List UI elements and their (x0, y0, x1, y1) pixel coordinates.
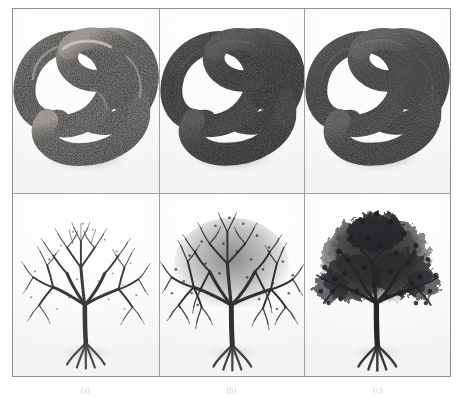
knot-stage-b (160, 9, 305, 193)
knot-render-matte (160, 9, 305, 193)
caption-b: (b) (158, 386, 304, 398)
figure-root: (a) (b) (c) (0, 0, 462, 399)
panel-tree-b (159, 193, 305, 377)
panel-knot-a (13, 9, 159, 193)
knot-stage-c (305, 9, 450, 193)
caption-c: (c) (305, 386, 451, 398)
tree-stage-b (160, 194, 305, 377)
knot-render-matte-rim (305, 9, 450, 193)
caption-a: (a) (12, 386, 158, 398)
tree-render-medium (160, 194, 305, 377)
panel-tree-c (304, 193, 450, 377)
tree-render-sparse (13, 194, 159, 377)
knot-render-glossy (13, 9, 159, 193)
panel-tree-a (13, 193, 159, 377)
tree-stage-c (305, 194, 450, 377)
caption-row: (a) (b) (c) (12, 386, 451, 399)
figure-grid (12, 8, 451, 377)
tree-stage-a (13, 194, 159, 377)
tree-render-dense (305, 194, 450, 377)
knot-stage-a (13, 9, 159, 193)
panel-knot-c (304, 9, 450, 193)
panel-knot-b (159, 9, 305, 193)
